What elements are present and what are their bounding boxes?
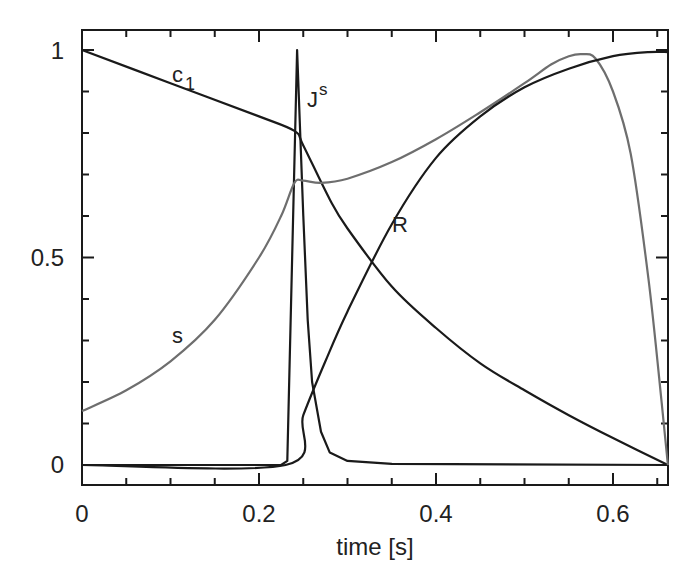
y-tick-label: 0: [51, 451, 64, 478]
x-tick-label: 0: [75, 500, 88, 527]
curve-s: [82, 54, 668, 465]
x-tick-label: 0.2: [242, 500, 275, 527]
x-axis-title: time [s]: [336, 533, 413, 560]
chart-canvas: 0 0.2 0.4 0.6 0 0.5 1 time [s] c1 Js s R: [0, 0, 691, 583]
y-tick-label: 0.5: [31, 244, 64, 271]
y-tick-label: 1: [51, 37, 64, 64]
curve-label-s: s: [172, 323, 183, 348]
curve-label-js: Js: [307, 80, 328, 112]
curve-r: [82, 52, 668, 469]
x-tick-label: 0.6: [596, 500, 629, 527]
curve-label-r: R: [392, 212, 408, 237]
curves: [82, 50, 668, 469]
x-tick-label: 0.4: [419, 500, 452, 527]
